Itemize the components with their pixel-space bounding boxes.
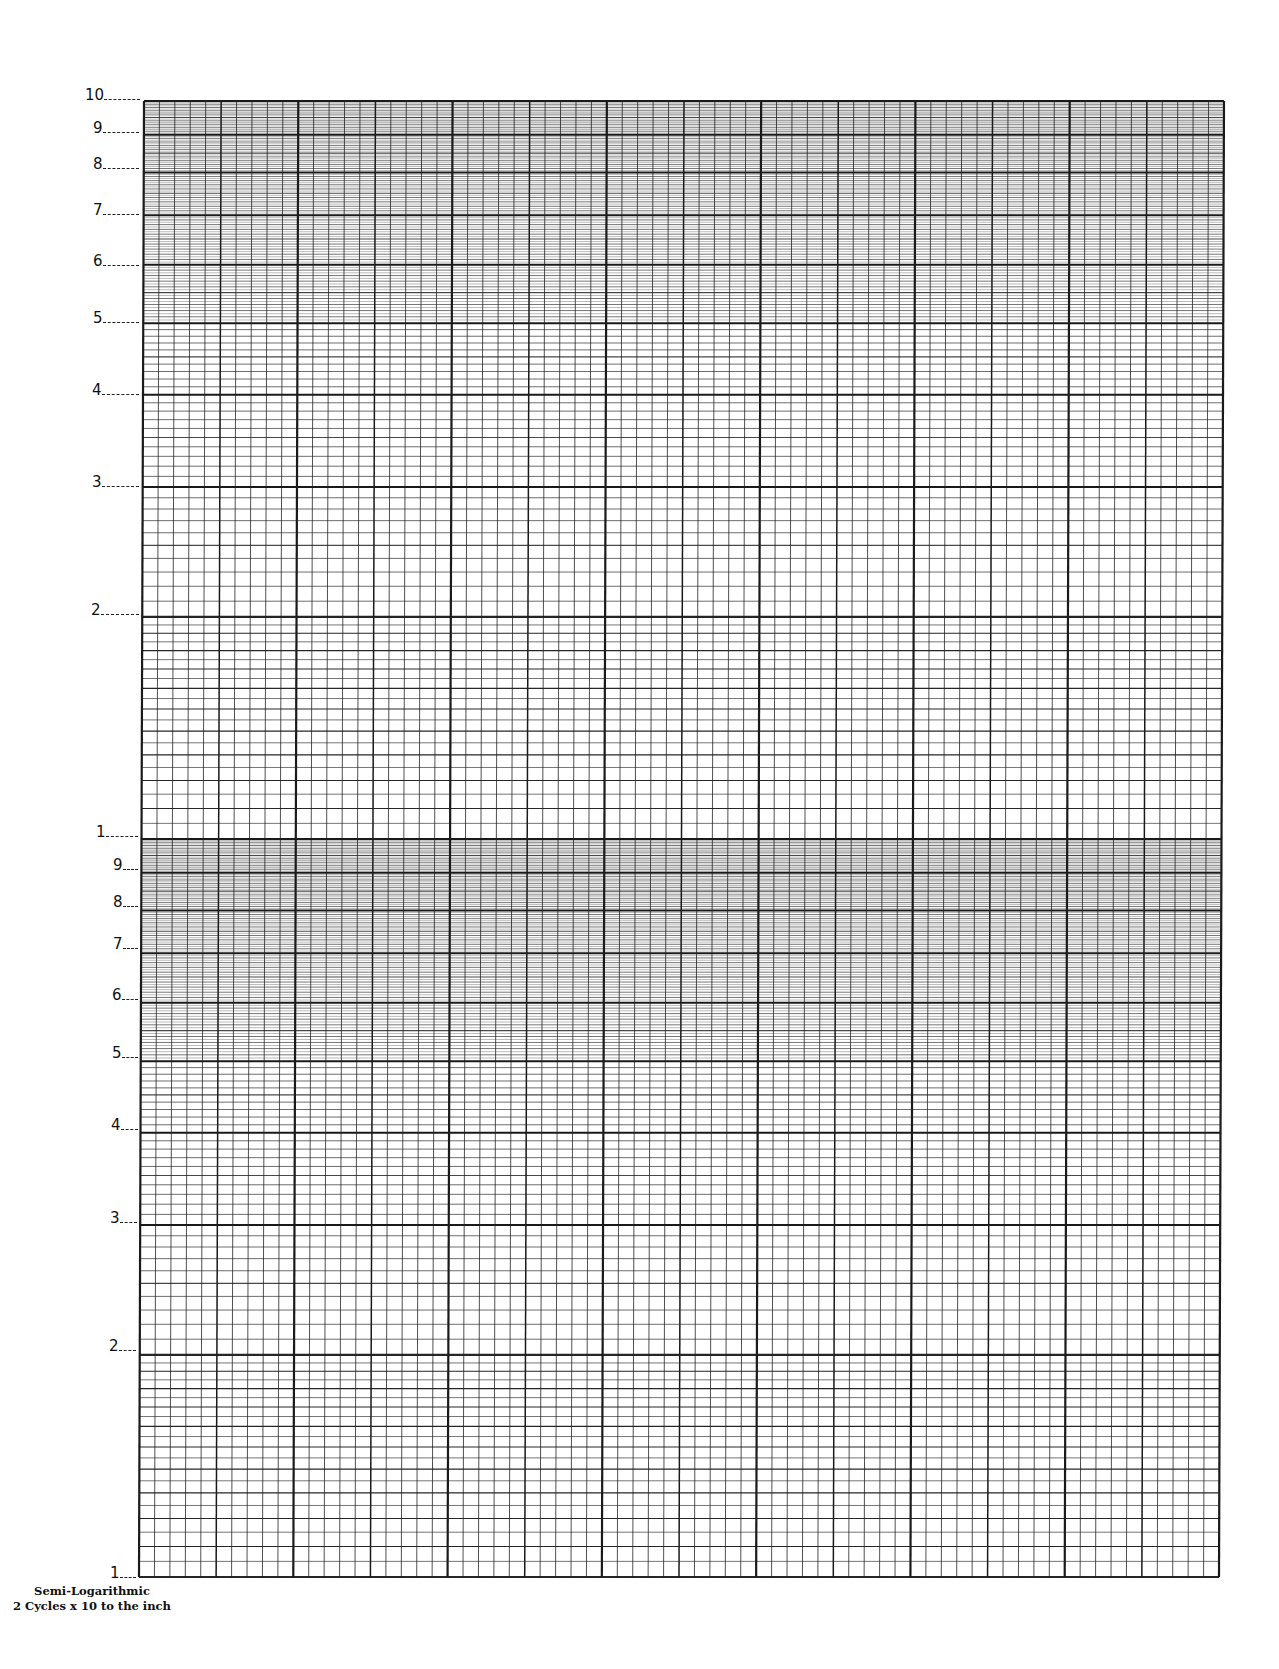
y-label-top-3: 3: [92, 475, 139, 490]
y-label-bottom-8: 8: [113, 895, 138, 910]
y-label-top-7: 7: [93, 203, 139, 218]
caption-scale: 2 Cycles x 10 to the inch: [0, 1599, 184, 1614]
y-label-cycle-boundary-1: 1: [96, 825, 138, 840]
y-label-bottom-2: 2: [109, 1339, 136, 1354]
y-label-bottom-4: 4: [111, 1118, 138, 1133]
y-label-top-9: 9: [93, 121, 139, 136]
y-label-top-2: 2: [91, 603, 139, 618]
y-label-top-10: 10: [85, 88, 140, 103]
y-label-bottom-1: 1: [110, 1566, 136, 1581]
y-label-bottom-7: 7: [113, 937, 138, 952]
y-label-top-6: 6: [93, 254, 139, 269]
y-label-bottom-3: 3: [110, 1211, 137, 1226]
y-label-top-5: 5: [93, 311, 139, 326]
paper-caption: Semi-Logarithmic 2 Cycles x 10 to the in…: [0, 1584, 184, 1614]
log-grid: [0, 0, 1279, 1669]
graph-paper: 10 9 8 7 6 5 4 3 2 1 9 8 7 6 5 4 3 2 1 S…: [0, 0, 1279, 1669]
y-label-top-8: 8: [93, 157, 139, 172]
y-label-bottom-6: 6: [112, 988, 138, 1003]
y-label-top-4: 4: [92, 383, 139, 398]
y-label-bottom-9: 9: [113, 858, 138, 873]
caption-title: Semi-Logarithmic: [0, 1584, 184, 1599]
y-label-bottom-5: 5: [112, 1046, 138, 1061]
